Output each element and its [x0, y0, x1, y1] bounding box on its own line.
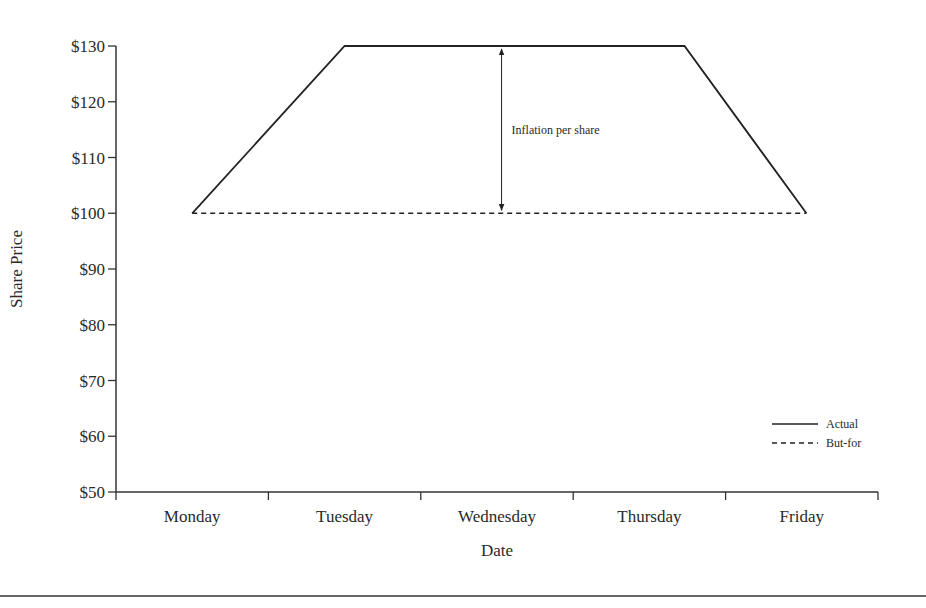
- x-tick-label: Thursday: [617, 507, 682, 526]
- y-tick-label: $50: [80, 483, 106, 502]
- y-axis-title: Share Price: [7, 230, 26, 308]
- x-ticks: MondayTuesdayWednesdayThursdayFriday: [116, 492, 878, 526]
- y-tick-label: $60: [80, 427, 106, 446]
- axes: [116, 46, 878, 492]
- x-tick-label: Monday: [164, 507, 221, 526]
- x-tick-label: Tuesday: [316, 507, 373, 526]
- y-tick-label: $70: [80, 372, 106, 391]
- legend-label: Actual: [826, 417, 859, 431]
- annotation-label: Inflation per share: [512, 123, 600, 137]
- x-tick-label: Wednesday: [458, 507, 536, 526]
- legend: ActualBut-for: [772, 417, 861, 450]
- y-tick-label: $110: [72, 149, 105, 168]
- y-ticks: $50$60$70$80$90$100$110$120$130: [71, 37, 116, 502]
- x-tick-label: Friday: [780, 507, 825, 526]
- legend-label: But-for: [826, 436, 861, 450]
- y-tick-label: $100: [71, 204, 105, 223]
- y-tick-label: $130: [71, 37, 105, 56]
- series-line-actual: [192, 46, 806, 213]
- series-lines: [192, 46, 806, 213]
- y-tick-label: $90: [80, 260, 106, 279]
- share-price-chart: $50$60$70$80$90$100$110$120$130 MondayTu…: [0, 0, 926, 608]
- x-axis-title: Date: [481, 541, 513, 560]
- annotations: Inflation per share: [502, 49, 600, 210]
- y-tick-label: $80: [80, 316, 106, 335]
- y-tick-label: $120: [71, 93, 105, 112]
